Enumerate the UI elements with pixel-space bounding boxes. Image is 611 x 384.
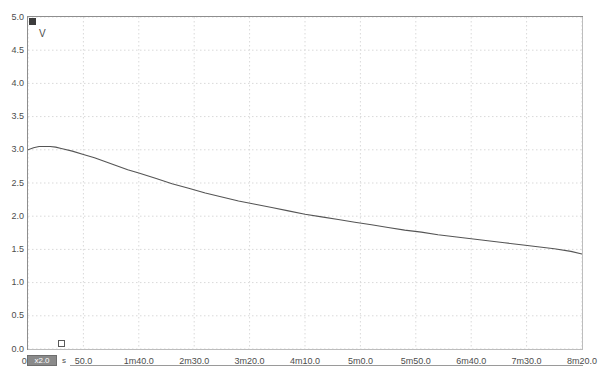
x-axis-unit: s xyxy=(62,356,66,365)
zoom-level-badge[interactable]: x2.0 xyxy=(27,355,57,366)
voltage-plot-window: 0.00.51.01.52.02.53.03.54.04.55.0 V 0.05… xyxy=(0,0,611,384)
x-axis-labels: 0.050.01m40.02m30.03m20.04m10.05m0.05m50… xyxy=(0,0,611,384)
axis-baseline-rule xyxy=(70,365,583,366)
